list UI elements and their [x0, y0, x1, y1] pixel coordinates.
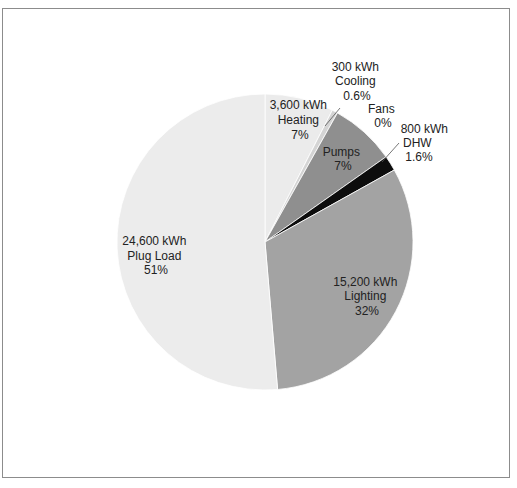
- dhw-leader-line: [382, 143, 399, 162]
- pie-chart: 3,600 kWh Heating 7% 300 kWh Cooling 0.6…: [0, 0, 517, 488]
- dhw-label: 800 kWh DHW 1.6%: [401, 122, 452, 164]
- fans-label: Fans 0%: [368, 102, 398, 130]
- cooling-label: 300 kWh Cooling 0.6%: [332, 60, 383, 103]
